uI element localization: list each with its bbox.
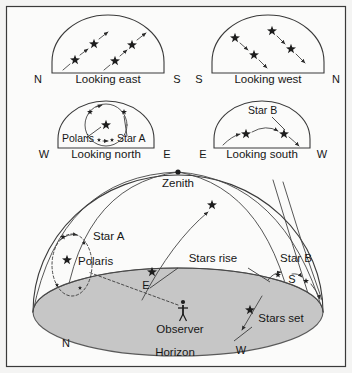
compass-west-label: W xyxy=(236,344,247,356)
panel-south-left-direction: E xyxy=(199,148,206,160)
star-b-label-south-panel: Star B xyxy=(248,104,277,116)
panel-east-caption: Looking east xyxy=(75,73,141,85)
panel-west-left-direction: S xyxy=(195,73,202,85)
compass-east-label: E xyxy=(142,279,149,291)
stars-set-label: Stars set xyxy=(258,312,304,324)
star-b-label: Star B xyxy=(280,252,312,264)
panel-south-right-direction: W xyxy=(317,148,328,160)
horizon-label: Horizon xyxy=(155,346,195,358)
zenith-label: Zenith xyxy=(162,177,194,189)
panel-south-caption: Looking south xyxy=(226,148,298,160)
panel-north-right-direction: E xyxy=(163,148,170,160)
star-a-label: Star A xyxy=(93,230,125,242)
stars-rise-label: Stars rise xyxy=(189,252,238,264)
compass-north-label: N xyxy=(62,337,70,349)
panel-east-left-direction: N xyxy=(34,73,42,85)
panel-north-left-direction: W xyxy=(39,148,50,160)
panel-north-caption: Looking north xyxy=(71,148,141,160)
compass-south-label: S xyxy=(288,273,295,285)
observer-label: Observer xyxy=(156,323,203,335)
zenith-point xyxy=(175,169,180,174)
panel-west-right-direction: N xyxy=(332,73,340,85)
panel-west-caption: Looking west xyxy=(234,73,302,85)
star-a-label-north-panel: Star A xyxy=(117,132,146,144)
polaris-label-north-panel: Polaris xyxy=(62,132,94,144)
panel-east-right-direction: S xyxy=(173,73,180,85)
star-motion-figure: N Looking east S S Looking west N xyxy=(0,0,352,373)
polaris-label: Polaris xyxy=(78,255,113,267)
